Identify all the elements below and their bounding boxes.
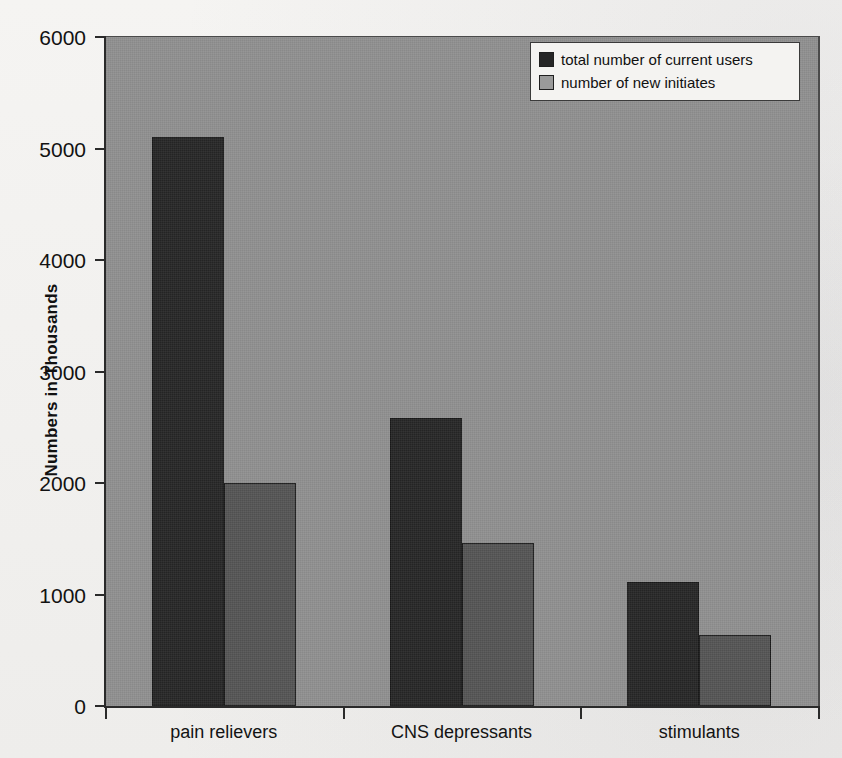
y-axis-tick-label: 1000 <box>24 584 86 605</box>
bar-chart: Numbers in Thousands 0100020003000400050… <box>0 0 842 758</box>
x-axis-label-stimulants: stimulants <box>659 722 740 743</box>
plot-area <box>105 37 818 706</box>
x-axis-tick-mark <box>580 707 582 719</box>
x-axis-label-CNS-depressants: CNS depressants <box>391 722 532 743</box>
legend-label: number of new initiates <box>561 75 715 90</box>
x-axis-tick-mark <box>105 707 107 719</box>
x-axis-tick-mark <box>343 707 345 719</box>
chart-legend: total number of current usersnumber of n… <box>530 42 800 101</box>
legend-label: total number of current users <box>561 52 753 67</box>
bar-CNS-depressants-series-0 <box>390 418 462 706</box>
y-axis-line <box>104 36 106 708</box>
y-axis-tick-label: 3000 <box>24 361 86 382</box>
y-axis-tick-labels: 0100020003000400050006000 <box>24 0 86 758</box>
bar-CNS-depressants-series-1 <box>462 543 534 706</box>
legend-swatch-icon <box>539 52 554 67</box>
x-axis-tick-mark <box>818 707 820 719</box>
bar-pain-relievers-series-1 <box>224 483 296 706</box>
y-axis-tick-label: 0 <box>24 696 86 717</box>
bar-stimulants-series-1 <box>699 635 771 706</box>
y-axis-tick-label: 2000 <box>24 473 86 494</box>
x-axis-line <box>104 706 820 708</box>
bar-stimulants-series-0 <box>627 582 699 706</box>
y-axis-tick-label: 4000 <box>24 250 86 271</box>
plot-border-right <box>818 36 820 708</box>
y-axis-tick-label: 6000 <box>24 27 86 48</box>
bar-pain-relievers-series-0 <box>152 137 224 706</box>
legend-swatch-icon <box>539 75 554 90</box>
x-axis-label-pain-relievers: pain relievers <box>170 722 277 743</box>
legend-item-1: number of new initiates <box>539 71 791 94</box>
legend-item-0: total number of current users <box>539 48 791 71</box>
y-axis-tick-label: 5000 <box>24 138 86 159</box>
